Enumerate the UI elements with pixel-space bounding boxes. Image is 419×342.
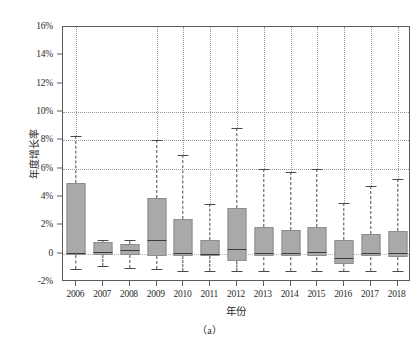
box-rect [147, 198, 166, 255]
whisker-cap-upper [178, 155, 189, 156]
whisker-cap-lower [339, 271, 350, 272]
y-tick-label: 8% [41, 134, 53, 144]
whisker-lower [102, 255, 103, 266]
y-tick-label: 16% [36, 21, 53, 31]
x-tick-mark [263, 281, 264, 286]
y-tick-label: 10% [36, 106, 53, 116]
box-rect [228, 208, 247, 261]
x-tick-label: 2010 [174, 289, 192, 299]
x-tick-label: 2011 [200, 289, 217, 299]
whisker-cap-upper [339, 203, 350, 204]
x-tick-mark [397, 281, 398, 286]
whisker-lower [210, 256, 211, 271]
whisker-lower [290, 257, 291, 271]
gridline-vertical [264, 27, 265, 169]
gridline-horizontal [63, 112, 409, 113]
median-line [94, 252, 113, 253]
gridline-vertical [76, 27, 77, 136]
whisker-cap-upper [205, 204, 216, 205]
whisker-upper [263, 169, 264, 228]
boxplot-figure: 年度增长率 -2%02%4%6%8%10%12%14%16% 200620072… [0, 0, 419, 342]
box-rect [94, 242, 113, 255]
whisker-cap-lower [365, 271, 376, 272]
x-tick-mark [129, 281, 130, 286]
x-tick-mark [102, 281, 103, 286]
plot-area [62, 26, 410, 281]
median-line [361, 253, 380, 254]
whisker-cap-lower [124, 268, 135, 269]
box-rect [174, 219, 193, 256]
whisker-lower [76, 255, 77, 269]
x-tick-label: 2017 [361, 289, 379, 299]
whisker-cap-lower [312, 271, 323, 272]
median-line [120, 250, 139, 251]
gridline-vertical [237, 27, 238, 128]
whisker-lower [317, 257, 318, 271]
whisker-lower [370, 257, 371, 271]
whisker-cap-upper [365, 186, 376, 187]
x-tick-mark [182, 281, 183, 286]
whisker-cap-upper [231, 128, 242, 129]
x-tick-label: 2012 [227, 289, 245, 299]
whisker-upper [343, 203, 344, 241]
box-rect [67, 183, 86, 255]
whisker-cap-upper [71, 136, 82, 137]
y-tick-label: 2% [41, 219, 53, 229]
x-tick-mark [290, 281, 291, 286]
y-tick-label: 6% [41, 163, 53, 173]
whisker-lower [263, 257, 264, 271]
x-tick-label: 2006 [66, 289, 84, 299]
gridline-vertical [317, 27, 318, 169]
x-tick-mark [343, 281, 344, 286]
whisker-cap-lower [258, 271, 269, 272]
median-line [308, 252, 327, 253]
whisker-upper [156, 140, 157, 198]
x-tick-label: 2015 [307, 289, 325, 299]
median-line [174, 253, 193, 254]
y-tick-label: 0 [48, 248, 53, 258]
x-tick-label: 2018 [388, 289, 406, 299]
whisker-upper [397, 179, 398, 231]
whisker-lower [183, 256, 184, 271]
x-tick-mark [236, 281, 237, 286]
whisker-cap-upper [258, 169, 269, 170]
whisker-upper [317, 169, 318, 228]
gridline-vertical [398, 27, 399, 179]
whisker-cap-lower [392, 271, 403, 272]
x-tick-mark [370, 281, 371, 286]
x-tick-label: 2007 [93, 289, 111, 299]
whisker-lower [343, 264, 344, 271]
y-axis-ticks: -2%02%4%6%8%10%12%14%16% [0, 26, 62, 281]
x-tick-label: 2014 [281, 289, 299, 299]
whisker-cap-upper [312, 169, 323, 170]
x-tick-mark [316, 281, 317, 286]
whisker-cap-lower [178, 271, 189, 272]
whisker-lower [236, 261, 237, 271]
whisker-cap-lower [231, 271, 242, 272]
whisker-upper [290, 172, 291, 230]
x-tick-label: 2013 [254, 289, 272, 299]
median-line [335, 258, 354, 259]
median-line [201, 254, 220, 255]
y-tick-label: -2% [38, 276, 53, 286]
x-tick-mark [75, 281, 76, 286]
median-line [228, 249, 247, 250]
whisker-lower [129, 255, 130, 268]
median-line [254, 253, 273, 254]
x-tick-label: 2008 [120, 289, 138, 299]
median-line [147, 240, 166, 241]
whisker-cap-lower [205, 271, 216, 272]
whisker-cap-upper [151, 140, 162, 141]
whisker-lower [156, 256, 157, 269]
whisker-upper [210, 204, 211, 240]
median-line [388, 253, 407, 254]
whisker-cap-lower [285, 271, 296, 272]
median-line [281, 253, 300, 254]
y-tick-label: 4% [41, 191, 53, 201]
x-axis-title: 年份 [62, 303, 410, 318]
y-tick-label: 14% [36, 49, 53, 59]
gridline-vertical [183, 27, 184, 155]
whisker-cap-lower [151, 269, 162, 270]
figure-caption: （a） [0, 322, 419, 337]
gridline-vertical [344, 27, 345, 203]
